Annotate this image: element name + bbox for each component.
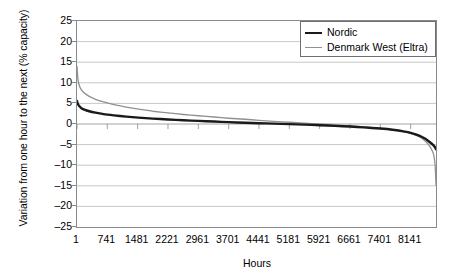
legend-label-denmark-west: Denmark West (Eltra) [327,42,428,53]
x-tick-label: 8141 [398,234,421,244]
x-tick-label: 5921 [307,234,330,244]
x-tick-label: 5181 [277,234,300,244]
series-line [77,66,436,185]
legend-line-icon-denmark-west [305,47,322,48]
x-tick-label: 4441 [246,234,269,244]
x-tick-label: 741 [98,234,116,244]
x-tick-label: 7401 [368,234,391,244]
legend-item-denmark-west: Denmark West (Eltra) [305,40,431,55]
legend-line-icon-nordic [305,32,322,34]
x-tick-label: 2221 [155,234,178,244]
legend-item-nordic: Nordic [305,25,431,40]
chart-figure: Variation from one hour to the next (% c… [0,0,460,280]
x-tick-label: 1481 [125,234,148,244]
legend: Nordic Denmark West (Eltra) [300,21,436,57]
x-tick-label: 3701 [216,234,239,244]
legend-label-nordic: Nordic [327,27,357,38]
x-tick-label: 6661 [337,234,360,244]
x-tick-label: 2961 [186,234,209,244]
x-tick-label: 1 [73,234,79,244]
x-axis-title: Hours [76,257,438,269]
